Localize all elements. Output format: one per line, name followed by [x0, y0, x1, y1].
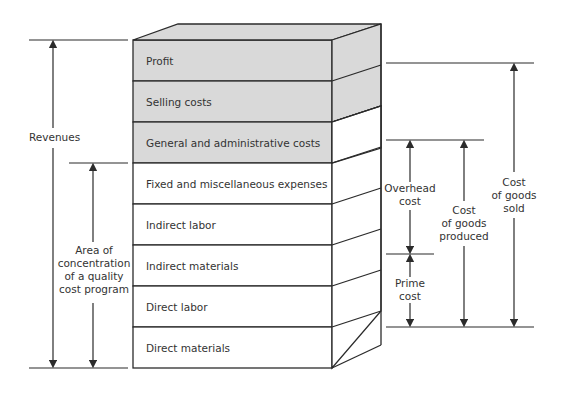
layer-label: Selling costs: [146, 96, 212, 108]
layer-label: General and administrative costs: [146, 137, 320, 149]
quality-area-line: concentration: [56, 257, 132, 270]
quality-area-line: Area of: [56, 244, 132, 257]
quality-area-line: of a quality: [56, 270, 132, 283]
layer-label: Direct materials: [146, 342, 230, 354]
goods-produced-label: Cost of goods produced: [436, 204, 492, 243]
goods-produced-line: Cost: [436, 204, 492, 217]
goods-sold-line: sold: [488, 202, 540, 215]
block-front-face: [133, 40, 332, 368]
quality-area-label: Area of concentration of a quality cost …: [56, 244, 132, 296]
quality-area-line: cost program: [56, 283, 132, 296]
goods-produced-line: of goods: [436, 217, 492, 230]
prime-line: Prime: [390, 277, 430, 290]
diagram-canvas: [0, 0, 562, 395]
goods-sold-label: Cost of goods sold: [488, 176, 540, 215]
goods-sold-line: of goods: [488, 189, 540, 202]
cost-structure-diagram: Profit Selling costs General and adminis…: [0, 0, 562, 395]
goods-sold-line: Cost: [488, 176, 540, 189]
layer-label: Profit: [146, 55, 173, 67]
layer-label: Fixed and miscellaneous expenses: [146, 178, 327, 190]
overhead-line: Overhead: [384, 182, 436, 195]
layer-label: Direct labor: [146, 301, 208, 313]
layer-label: Indirect materials: [146, 260, 238, 272]
revenues-label: Revenues: [29, 131, 77, 144]
goods-produced-line: produced: [436, 230, 492, 243]
prime-cost-label: Prime cost: [390, 277, 430, 303]
overhead-cost-label: Overhead cost: [384, 182, 436, 208]
layer-label: Indirect labor: [146, 219, 216, 231]
left-brackets: [29, 40, 128, 368]
prime-line: cost: [390, 290, 430, 303]
block-side-face: [332, 24, 381, 368]
overhead-line: cost: [384, 195, 436, 208]
